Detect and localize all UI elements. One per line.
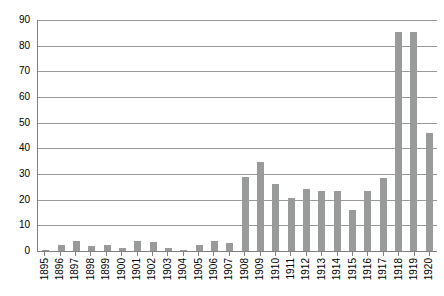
bar	[426, 133, 433, 251]
bar-slot	[176, 20, 191, 251]
x-tick-mark	[337, 252, 338, 256]
x-tick-slot	[237, 252, 252, 256]
y-tick-label: 90	[19, 15, 30, 25]
x-tick-slot	[129, 252, 144, 256]
x-tick-mark	[229, 252, 230, 256]
x-tick-label: 1911	[286, 258, 296, 280]
x-label-slot: 1920	[422, 258, 437, 296]
y-tick-label: 20	[19, 195, 30, 205]
bar	[257, 162, 264, 251]
bar	[364, 191, 371, 251]
bar	[303, 189, 310, 251]
x-tick-mark	[290, 252, 291, 256]
bar-slot	[345, 20, 360, 251]
x-axis-ticks	[37, 252, 437, 256]
x-label-slot: 1908	[237, 258, 252, 296]
x-tick-slot	[329, 252, 344, 256]
y-tick-label: 50	[19, 118, 30, 128]
x-tick-mark	[260, 252, 261, 256]
y-tick-label: 0	[24, 246, 30, 256]
bar-slot	[237, 20, 252, 251]
bar-slot	[191, 20, 206, 251]
x-tick-slot	[422, 252, 437, 256]
x-tick-mark	[198, 252, 199, 256]
x-tick-slot	[191, 252, 206, 256]
x-label-slot: 1897	[68, 258, 83, 296]
y-tick-label: 60	[19, 92, 30, 102]
x-label-slot: 1903	[160, 258, 175, 296]
bar	[88, 246, 95, 251]
x-label-slot: 1914	[329, 258, 344, 296]
bar-chart: 9080706050403020100 18951896189718981899…	[0, 0, 444, 296]
x-tick-label: 1908	[240, 258, 250, 280]
bar-slot	[253, 20, 268, 251]
x-tick-mark	[244, 252, 245, 256]
x-tick-mark	[106, 252, 107, 256]
bar	[104, 245, 111, 251]
x-label-slot: 1909	[252, 258, 267, 296]
x-label-slot: 1910	[268, 258, 283, 296]
x-label-slot: 1906	[206, 258, 221, 296]
x-tick-mark	[398, 252, 399, 256]
plot-area	[37, 20, 437, 252]
x-tick-slot	[376, 252, 391, 256]
bar	[318, 191, 325, 251]
x-tick-slot	[345, 252, 360, 256]
bar-slot	[69, 20, 84, 251]
bar-slot	[115, 20, 130, 251]
x-tick-label: 1910	[271, 258, 281, 280]
x-tick-slot	[360, 252, 375, 256]
x-label-slot: 1904	[176, 258, 191, 296]
x-tick-mark	[352, 252, 353, 256]
x-tick-slot	[99, 252, 114, 256]
x-tick-slot	[114, 252, 129, 256]
x-tick-label: 1909	[255, 258, 265, 280]
x-tick-mark	[367, 252, 368, 256]
x-tick-label: 1903	[163, 258, 173, 280]
x-tick-mark	[414, 252, 415, 256]
x-label-slot: 1918	[391, 258, 406, 296]
x-tick-label: 1902	[147, 258, 157, 280]
x-tick-mark	[167, 252, 168, 256]
y-tick-label: 40	[19, 143, 30, 153]
bar-slot	[268, 20, 283, 251]
x-label-slot: 1916	[360, 258, 375, 296]
x-tick-slot	[283, 252, 298, 256]
bar-slot	[360, 20, 375, 251]
x-tick-slot	[314, 252, 329, 256]
x-tick-label: 1920	[424, 258, 434, 280]
bar	[196, 245, 203, 251]
x-label-slot: 1907	[222, 258, 237, 296]
bar	[226, 243, 233, 251]
x-tick-slot	[160, 252, 175, 256]
x-label-slot: 1896	[52, 258, 67, 296]
bar	[288, 198, 295, 251]
x-tick-label: 1899	[101, 258, 111, 280]
x-tick-mark	[121, 252, 122, 256]
x-label-slot: 1905	[191, 258, 206, 296]
x-tick-slot	[52, 252, 67, 256]
bar-slot	[38, 20, 53, 251]
x-axis: 1895189618971898189919001901190219031904…	[37, 258, 437, 296]
bar	[42, 250, 49, 251]
x-tick-slot	[252, 252, 267, 256]
x-tick-mark	[321, 252, 322, 256]
bar-slot	[84, 20, 99, 251]
x-label-slot: 1901	[129, 258, 144, 296]
x-tick-mark	[152, 252, 153, 256]
x-tick-mark	[306, 252, 307, 256]
x-tick-label: 1896	[55, 258, 65, 280]
x-tick-slot	[206, 252, 221, 256]
x-tick-label: 1895	[40, 258, 50, 280]
x-tick-label: 1915	[348, 258, 358, 280]
x-tick-label: 1916	[363, 258, 373, 280]
y-tick-label: 10	[19, 220, 30, 230]
x-tick-slot	[222, 252, 237, 256]
x-tick-mark	[275, 252, 276, 256]
x-tick-slot	[299, 252, 314, 256]
x-tick-slot	[268, 252, 283, 256]
x-tick-label: 1917	[378, 258, 388, 280]
x-label-slot: 1898	[83, 258, 98, 296]
bars-series	[38, 20, 437, 251]
x-tick-mark	[137, 252, 138, 256]
